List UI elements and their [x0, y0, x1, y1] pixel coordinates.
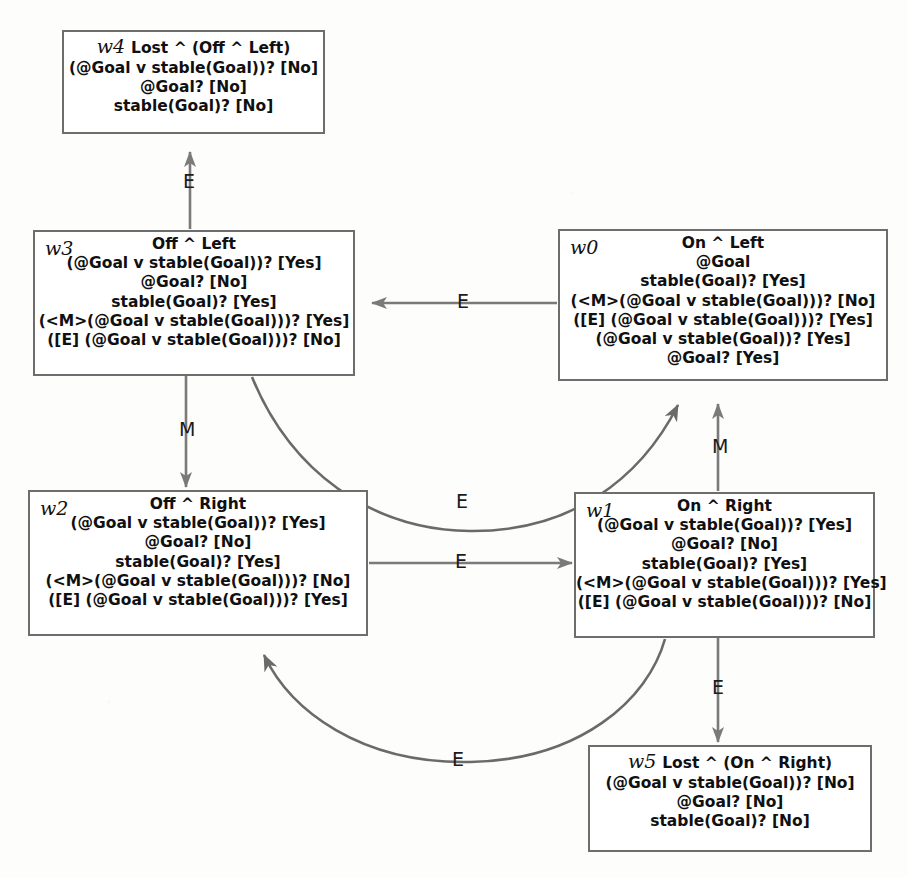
- state-header-w3: Off ^ Left: [35, 235, 353, 254]
- state-node-w3[interactable]: w3 Off ^ Left (@Goal v stable(Goal))? [Y…: [33, 230, 355, 376]
- edge-label-w1-w5: E: [712, 678, 724, 697]
- state-prop-line: ([E] (@Goal v stable(Goal)))? [No]: [35, 331, 353, 350]
- state-node-w0[interactable]: w0 On ^ Left @Goal stable(Goal)? [Yes] (…: [558, 229, 888, 381]
- edge-label-w1-w0: M: [712, 437, 728, 456]
- state-prop-line: @Goal: [560, 253, 886, 272]
- diagram-canvas: E E M E E M E E w4Lost ^ (Off ^ Left) (@…: [0, 0, 907, 877]
- state-header-w1: On ^ Right: [576, 497, 873, 516]
- edge-label-w3-w2: M: [179, 420, 195, 439]
- state-prop-line: stable(Goal)? [No]: [64, 97, 323, 116]
- state-prop-line: @Goal? [No]: [35, 273, 353, 292]
- state-prop-line: (@Goal v stable(Goal))? [Yes]: [560, 330, 886, 349]
- state-node-w4[interactable]: w4Lost ^ (Off ^ Left) (@Goal v stable(Go…: [62, 30, 325, 134]
- transition-w1-to-w2: [264, 639, 665, 762]
- edge-label-w0-w3: E: [457, 292, 469, 311]
- state-header-row-w5: w5Lost ^ (On ^ Right): [590, 750, 870, 774]
- state-id-w0: w0: [570, 236, 598, 260]
- state-prop-line: (<M>(@Goal v stable(Goal)))? [Yes]: [35, 312, 353, 331]
- state-prop-line: ([E] (@Goal v stable(Goal)))? [Yes]: [30, 591, 366, 610]
- state-prop-line: stable(Goal)? [Yes]: [576, 555, 873, 574]
- state-node-w2[interactable]: w2 Off ^ Right (@Goal v stable(Goal))? […: [28, 490, 368, 636]
- state-prop-line: stable(Goal)? [Yes]: [30, 553, 366, 572]
- state-prop-line: ([E] (@Goal v stable(Goal)))? [Yes]: [560, 311, 886, 330]
- edge-label-w3-w0: E: [456, 492, 468, 511]
- state-prop-line: (@Goal v stable(Goal))? [Yes]: [35, 254, 353, 273]
- state-id-w2: w2: [40, 497, 68, 521]
- state-header-row-w4: w4Lost ^ (Off ^ Left): [64, 35, 323, 59]
- edge-label-w3-w4: E: [183, 172, 195, 191]
- state-prop-line: stable(Goal)? [No]: [590, 812, 870, 831]
- state-prop-line: (<M>(@Goal v stable(Goal)))? [Yes]: [576, 574, 873, 593]
- edge-label-w1-w2: E: [452, 750, 464, 769]
- state-prop-line: (@Goal v stable(Goal))? [No]: [64, 59, 323, 78]
- state-id-w4: w4: [97, 35, 125, 57]
- state-prop-line: stable(Goal)? [Yes]: [35, 293, 353, 312]
- state-prop-line: (@Goal v stable(Goal))? [Yes]: [30, 514, 366, 533]
- state-prop-line: @Goal? [No]: [590, 793, 870, 812]
- edge-curve: [264, 639, 665, 762]
- state-id-w5: w5: [628, 750, 656, 772]
- state-node-w1[interactable]: w1 On ^ Right (@Goal v stable(Goal))? [Y…: [574, 492, 875, 638]
- state-prop-line: (<M>(@Goal v stable(Goal)))? [No]: [560, 292, 886, 311]
- state-id-w1: w1: [586, 499, 614, 523]
- state-header-w5: Lost ^ (On ^ Right): [662, 754, 832, 772]
- state-header-w2: Off ^ Right: [30, 495, 366, 514]
- state-prop-line: @Goal? [No]: [30, 533, 366, 552]
- state-header-w4: Lost ^ (Off ^ Left): [131, 39, 290, 57]
- state-prop-line: (<M>(@Goal v stable(Goal)))? [No]: [30, 572, 366, 591]
- state-prop-line: @Goal? [No]: [576, 535, 873, 554]
- state-prop-line: ([E] (@Goal v stable(Goal)))? [No]: [576, 593, 873, 612]
- state-header-w0: On ^ Left: [560, 234, 886, 253]
- state-prop-line: @Goal? [No]: [64, 78, 323, 97]
- state-prop-line: (@Goal v stable(Goal))? [No]: [590, 774, 870, 793]
- state-id-w3: w3: [45, 237, 73, 261]
- state-node-w5[interactable]: w5Lost ^ (On ^ Right) (@Goal v stable(Go…: [588, 745, 872, 852]
- state-prop-line: (@Goal v stable(Goal))? [Yes]: [576, 516, 873, 535]
- state-prop-line: @Goal? [Yes]: [560, 349, 886, 368]
- state-prop-line: stable(Goal)? [Yes]: [560, 272, 886, 291]
- edge-label-w2-w1: E: [455, 552, 467, 571]
